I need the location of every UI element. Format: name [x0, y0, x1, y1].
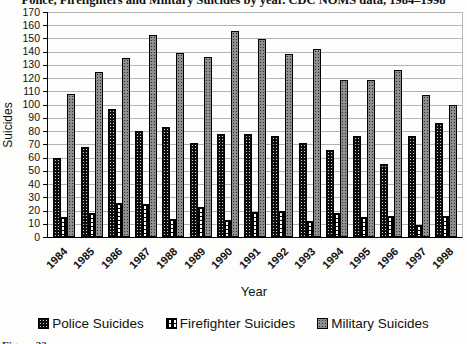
- x-tick-label-1989: 1989: [176, 245, 207, 276]
- plot-area: [47, 12, 463, 238]
- x-tick-label-1990: 1990: [204, 245, 235, 276]
- y-tick-label-0: 0: [0, 232, 40, 243]
- y-tick-label-20: 20: [0, 205, 40, 216]
- bar-group-1993: [299, 49, 321, 237]
- x-tick-label-1988: 1988: [149, 245, 180, 276]
- y-tick-label-10: 10: [0, 218, 40, 229]
- legend-label: Police Suicides: [52, 316, 144, 331]
- bar-group-1990: [217, 31, 239, 238]
- legend-marker-fire: [166, 318, 177, 329]
- bar-military-1998: [449, 105, 457, 237]
- y-tick-label-40: 40: [0, 179, 40, 190]
- bar-group-1992: [271, 54, 293, 237]
- y-tick-label-30: 30: [0, 192, 40, 203]
- x-axis-title: Year: [47, 284, 461, 299]
- bar-military-1986: [122, 58, 130, 237]
- y-tick-label-100: 100: [0, 99, 40, 110]
- bar-group-1989: [190, 57, 212, 237]
- legend-marker-military: [317, 318, 328, 329]
- bar-group-1997: [408, 95, 430, 237]
- bar-military-1995: [367, 80, 375, 238]
- bar-group-1988: [162, 53, 184, 237]
- legend-label: Firefighter Suicides: [180, 316, 296, 331]
- bar-group-1991: [244, 39, 266, 238]
- y-tick-label-150: 150: [0, 33, 40, 44]
- bar-group-1984: [53, 94, 75, 237]
- bar-military-1992: [285, 54, 293, 237]
- bar-group-1996: [380, 70, 402, 237]
- bar-military-1988: [176, 53, 184, 237]
- bar-military-1985: [95, 72, 103, 237]
- x-tick-label-1984: 1984: [38, 245, 69, 276]
- x-tick-label-1997: 1997: [397, 245, 428, 276]
- y-tick-label-90: 90: [0, 112, 40, 123]
- figure-caption: Figure 22: [2, 339, 47, 344]
- legend-item-fire: Firefighter Suicides: [166, 316, 296, 331]
- legend-marker-police: [38, 318, 49, 329]
- bar-group-1987: [135, 35, 157, 238]
- bar-series-container: [48, 12, 462, 237]
- y-tick-label-130: 130: [0, 59, 40, 70]
- bar-military-1989: [204, 57, 212, 237]
- y-tick-label-170: 170: [0, 7, 40, 18]
- x-tick-label-1987: 1987: [121, 245, 152, 276]
- x-tick-label-1992: 1992: [259, 245, 290, 276]
- x-tick-label-1998: 1998: [425, 245, 456, 276]
- y-tick-label-50: 50: [0, 165, 40, 176]
- bar-police-1997: [408, 136, 416, 237]
- bar-group-1995: [353, 80, 375, 238]
- bar-military-1997: [422, 95, 430, 237]
- x-tick-label-1996: 1996: [369, 245, 400, 276]
- legend: Police SuicidesFirefighter SuicidesMilit…: [0, 313, 467, 333]
- bar-military-1996: [394, 70, 402, 237]
- y-tick-label-70: 70: [0, 139, 40, 150]
- legend-label: Military Suicides: [331, 316, 429, 331]
- y-tick-label-120: 120: [0, 73, 40, 84]
- x-axis-tick-labels: 1984198519861987198819891990199119921993…: [47, 240, 461, 282]
- figure: Police, Firefighters and Military Suicid…: [0, 0, 467, 344]
- bar-group-1985: [81, 72, 103, 237]
- y-tick-label-80: 80: [0, 126, 40, 137]
- legend-item-military: Military Suicides: [317, 316, 429, 331]
- bar-military-1991: [258, 39, 266, 238]
- y-tick-label-60: 60: [0, 152, 40, 163]
- y-tick-label-110: 110: [0, 86, 40, 97]
- x-tick-label-1994: 1994: [314, 245, 345, 276]
- bar-group-1994: [326, 80, 348, 238]
- y-tick-label-140: 140: [0, 46, 40, 57]
- x-tick-label-1995: 1995: [342, 245, 373, 276]
- bar-military-1984: [67, 94, 75, 237]
- bar-group-1998: [435, 105, 457, 237]
- legend-item-police: Police Suicides: [38, 316, 144, 331]
- bar-military-1993: [313, 49, 321, 237]
- y-tick-label-160: 160: [0, 20, 40, 31]
- bar-group-1986: [108, 58, 130, 237]
- chart-title: Police, Firefighters and Military Suicid…: [0, 0, 467, 8]
- x-tick-label-1991: 1991: [231, 245, 262, 276]
- x-tick-label-1985: 1985: [66, 245, 97, 276]
- x-tick-label-1993: 1993: [287, 245, 318, 276]
- bar-military-1987: [149, 35, 157, 238]
- bar-military-1990: [231, 31, 239, 238]
- x-tick-label-1986: 1986: [93, 245, 124, 276]
- bar-military-1994: [340, 80, 348, 238]
